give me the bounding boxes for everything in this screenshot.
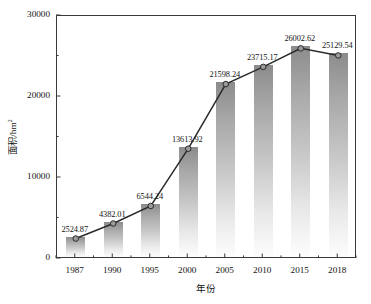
x-axis-tick-labels: 19871990199520002005201020152018 — [56, 266, 356, 280]
x-tick-2015: 2015 — [291, 266, 309, 275]
data-label-2000: 13613.92 — [172, 136, 203, 144]
data-label-2018: 25129.54 — [322, 42, 353, 50]
x-tick-1995: 1995 — [141, 266, 159, 275]
x-tick-2018: 2018 — [328, 266, 346, 275]
data-labels-layer: 2524.874382.016544.2413613.9221598.24237… — [56, 15, 356, 258]
x-tick-2005: 2005 — [216, 266, 234, 275]
x-tick-2000: 2000 — [178, 266, 196, 275]
y-axis-tick-labels: 0100002000030000 — [0, 15, 50, 258]
data-label-1987: 2524.87 — [61, 226, 88, 234]
y-tick-30000: 30000 — [27, 10, 50, 19]
data-label-2010: 23715.17 — [247, 54, 278, 62]
data-label-2015: 26002.62 — [284, 35, 315, 43]
data-label-1990: 4382.01 — [99, 211, 126, 219]
y-tick-10000: 10000 — [27, 172, 50, 181]
x-tick-1987: 1987 — [66, 266, 84, 275]
data-label-1995: 6544.24 — [136, 193, 163, 201]
x-tick-1990: 1990 — [103, 266, 121, 275]
x-axis-title: 年份 — [56, 281, 356, 295]
x-tick-2010: 2010 — [253, 266, 271, 275]
chart-figure: 面积/hm2 0100002000030000 2524.874382.0165… — [0, 0, 371, 304]
y-tick-0: 0 — [45, 253, 50, 262]
data-label-2005: 21598.24 — [209, 71, 240, 79]
y-tick-20000: 20000 — [27, 91, 50, 100]
